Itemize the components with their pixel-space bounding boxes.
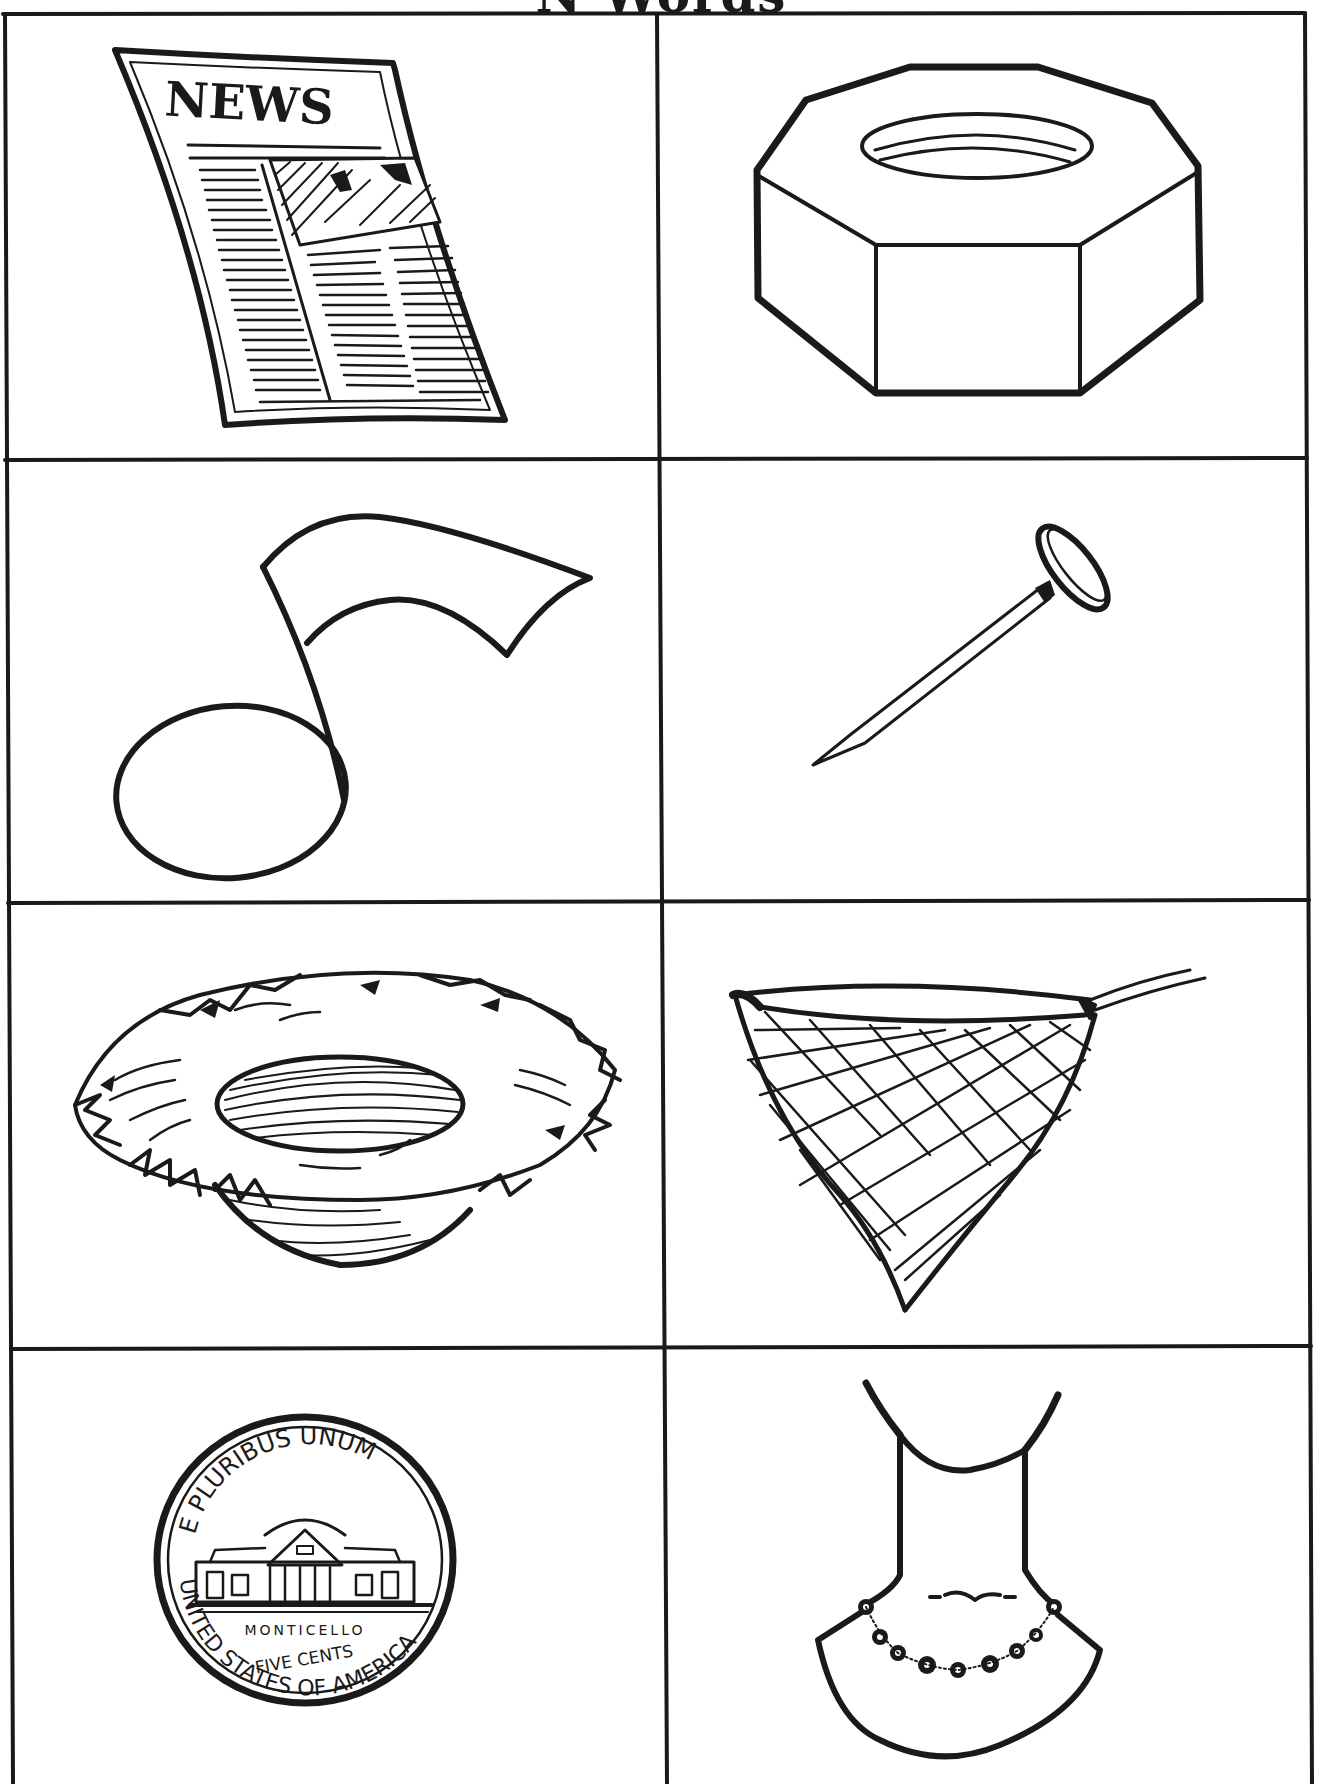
net-icon xyxy=(733,970,1205,1310)
music-note-icon xyxy=(109,516,590,887)
newspaper-icon: NEWS xyxy=(115,50,505,425)
svg-text:NEWS: NEWS xyxy=(163,71,335,136)
nest-icon xyxy=(75,973,620,1265)
necklace-icon xyxy=(818,1383,1100,1756)
worksheet-grid: NEWS xyxy=(0,0,1323,1784)
nickel-coin-icon: E PLURIBUS UNUM MONTICELLO FIVE CENTS UN… xyxy=(157,1417,453,1703)
coin-top-text: E PLURIBUS UNUM xyxy=(174,1422,381,1537)
nail-icon xyxy=(813,516,1120,765)
coin-building-text: MONTICELLO xyxy=(245,1622,366,1638)
nut-icon xyxy=(757,67,1200,393)
svg-text:E PLURIBUS UNUM: E PLURIBUS UNUM xyxy=(174,1422,381,1537)
